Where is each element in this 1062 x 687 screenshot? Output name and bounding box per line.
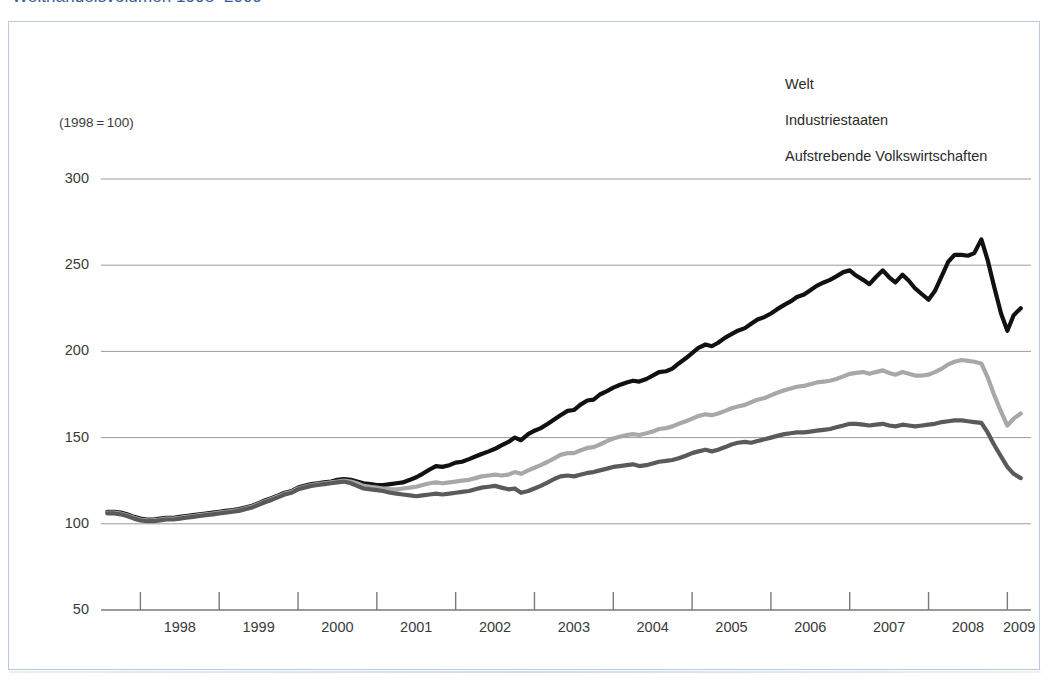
x-axis-label-2009: 2009	[1003, 619, 1035, 635]
plot-area: 50100150200250300 1998199920002001200220…	[9, 22, 1041, 671]
x-axis-label-1998: 1998	[164, 619, 196, 635]
y-axis-label-300: 300	[49, 170, 89, 186]
x-axis-label-2003: 2003	[558, 619, 590, 635]
panel-shadow	[9, 671, 1041, 673]
x-axis-label-2008: 2008	[952, 619, 984, 635]
x-tick-marks	[140, 592, 1007, 610]
y-axis-label-250: 250	[49, 256, 89, 272]
x-axis-label-2007: 2007	[873, 619, 905, 635]
x-axis-label-2005: 2005	[715, 619, 747, 635]
figure-root: Welthandelsvolumen 1998–2009 (1998 = 100…	[0, 0, 1062, 687]
x-axis-label-2001: 2001	[400, 619, 432, 635]
y-axis-label-150: 150	[49, 429, 89, 445]
y-axis-label-50: 50	[49, 601, 89, 617]
chart-panel: (1998 = 100) Welt Industriestaaten Aufst…	[8, 21, 1040, 670]
figure-title: Welthandelsvolumen 1998–2009	[12, 0, 262, 7]
x-axis-label-2004: 2004	[637, 619, 669, 635]
x-axis-label-2002: 2002	[479, 619, 511, 635]
y-axis-label-200: 200	[49, 342, 89, 358]
data-lines	[107, 239, 1020, 521]
x-axis-label-1999: 1999	[242, 619, 274, 635]
y-axis-label-100: 100	[49, 515, 89, 531]
gridlines	[101, 179, 1031, 610]
chart-canvas	[9, 22, 1041, 671]
series-line-welt	[107, 360, 1020, 520]
x-axis-label-2006: 2006	[794, 619, 826, 635]
x-axis-label-2000: 2000	[321, 619, 353, 635]
